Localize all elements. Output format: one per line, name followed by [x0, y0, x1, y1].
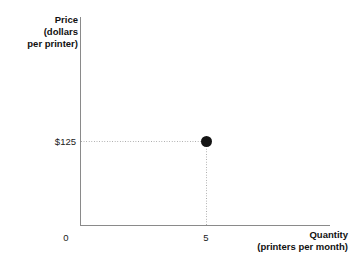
x-tick-label-5: 5: [186, 232, 226, 243]
y-axis-title-line-1: Price: [0, 14, 78, 26]
vertical-guide-line: [206, 141, 207, 226]
horizontal-guide-line: [81, 141, 206, 142]
price-quantity-chart: Price (dollars per printer) Quantity (pr…: [0, 0, 350, 264]
y-axis-title: Price (dollars per printer): [0, 14, 78, 51]
y-axis-title-line-2: (dollars: [0, 26, 78, 38]
y-axis-line: [80, 17, 81, 226]
y-axis-title-line-3: per printer): [0, 38, 78, 50]
x-axis-title-line-2: (printers per month): [180, 241, 348, 253]
data-point-marker: [201, 136, 212, 147]
y-tick-label-125: $125: [16, 136, 76, 147]
x-tick-label-0: 0: [46, 232, 86, 243]
